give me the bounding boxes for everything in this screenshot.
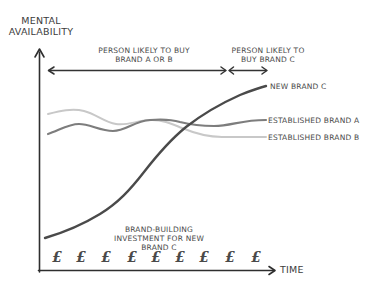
x-axis xyxy=(39,267,276,275)
series-label-brand-b: ESTABLISHED BRAND B xyxy=(268,133,359,142)
x-axis-label: TIME xyxy=(280,265,304,274)
pound-icon: £ xyxy=(100,249,112,265)
series-label-brand-c: NEW BRAND C xyxy=(270,82,327,91)
pound-icon: £ xyxy=(250,249,262,265)
range-label-c: PERSON LIKELY TO BUY BRAND C xyxy=(226,46,310,64)
range-arrow-a-or-b xyxy=(49,67,227,74)
series-line-brand-c xyxy=(45,86,266,238)
pound-icon: £ xyxy=(150,249,162,265)
pound-icon: £ xyxy=(75,249,87,265)
y-axis-label-line1: MENTAL xyxy=(6,15,76,26)
series-line-brand-a xyxy=(48,119,266,134)
pound-icon: £ xyxy=(51,249,63,265)
y-axis-label-line2: AVAILABILITY xyxy=(6,26,76,37)
y-axis xyxy=(35,49,44,272)
series-label-brand-a: ESTABLISHED BRAND A xyxy=(268,116,359,125)
y-axis-label: MENTAL AVAILABILITY xyxy=(6,15,76,37)
investment-label: BRAND-BUILDING INVESTMENT FOR NEW BRAND … xyxy=(100,225,218,252)
range-label-a-or-b: PERSON LIKELY TO BUY BRAND A OR B xyxy=(84,46,204,64)
pound-icon: £ xyxy=(198,249,210,265)
pound-icon: £ xyxy=(126,249,138,265)
pound-icon: £ xyxy=(224,249,236,265)
pound-icon: £ xyxy=(174,249,186,265)
range-arrow-c xyxy=(229,67,267,74)
